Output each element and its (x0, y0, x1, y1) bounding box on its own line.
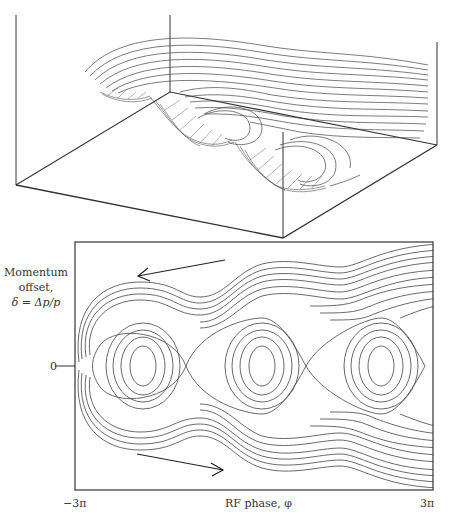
phase-space-plot (55, 242, 440, 490)
surface-3d-plot (16, 15, 437, 238)
y-axis-label-line-2: offset, (2, 280, 70, 295)
x-tick-max: 3π (420, 496, 434, 511)
arrow-left-icon (138, 260, 225, 281)
box-base-front (16, 145, 437, 238)
phase-space-contours (78, 244, 440, 488)
y-tick-zero: 0 (50, 359, 57, 374)
y-axis-label-line-1: Momentum (2, 265, 70, 280)
x-axis-label: RF phase, φ (225, 496, 292, 511)
arrow-right-icon (137, 454, 223, 476)
y-axis-label: Momentum offset, δ = Δp/p (2, 265, 70, 310)
x-tick-min: −3π (63, 496, 86, 511)
y-axis-label-line-3: δ = Δp/p (2, 295, 70, 310)
figure-canvas (0, 0, 450, 520)
